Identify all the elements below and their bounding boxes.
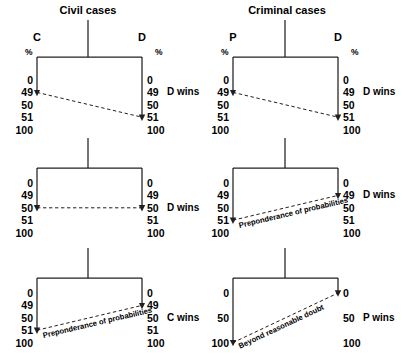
scale-label-right-civil-middle-0: 0: [147, 178, 153, 189]
scale-label-right-criminal-top-100: 100: [343, 125, 361, 136]
scale-label-right-criminal-top-0: 0: [343, 75, 349, 86]
scale-label-left-criminal-bottom-50: 50: [217, 313, 229, 324]
outcome-label-criminal-middle: D wins: [363, 190, 395, 200]
column-title-criminal: Criminal cases: [248, 5, 326, 16]
party-label-criminal-right: D: [334, 32, 342, 43]
percent-label-civil-right: %: [155, 48, 163, 57]
scale-label-right-civil-middle-50: 50: [147, 203, 159, 214]
scale-label-right-criminal-middle-51: 51: [343, 215, 355, 226]
scale-label-left-criminal-middle-100: 100: [211, 228, 229, 239]
scale-label-left-criminal-top-50: 50: [217, 100, 229, 111]
outcome-label-civil-middle: D wins: [167, 203, 199, 213]
scale-label-left-criminal-top-100: 100: [211, 125, 229, 136]
party-label-civil-right: D: [138, 32, 146, 43]
scale-label-right-criminal-bottom-50: 50: [343, 313, 355, 324]
outcome-label-civil-bottom: C wins: [167, 313, 199, 323]
scale-label-right-criminal-top-50: 50: [343, 100, 355, 111]
percent-label-criminal-right: %: [351, 48, 359, 57]
scale-label-right-civil-middle-51: 51: [147, 215, 159, 226]
outcome-label-criminal-top: D wins: [363, 87, 395, 97]
percent-label-criminal-left: %: [221, 48, 229, 57]
scale-label-left-civil-top-0: 0: [27, 75, 33, 86]
scale-label-left-criminal-top-51: 51: [217, 112, 229, 123]
column-title-civil: Civil cases: [60, 5, 117, 16]
scale-label-left-civil-bottom-51: 51: [21, 325, 33, 336]
scale-label-left-civil-top-100: 100: [15, 125, 33, 136]
scale-label-right-civil-bottom-0: 0: [147, 288, 153, 299]
scale-label-left-criminal-top-0: 0: [223, 75, 229, 86]
scale-label-right-civil-top-0: 0: [147, 75, 153, 86]
diagram-canvas: Civil cases C % D % Criminal cases P % D…: [0, 0, 408, 356]
scale-label-right-civil-middle-100: 100: [147, 228, 165, 239]
scale-label-left-civil-bottom-0: 0: [27, 288, 33, 299]
scale-label-right-criminal-top-51: 51: [343, 112, 355, 123]
scale-label-left-criminal-bottom-100: 100: [211, 338, 229, 349]
scale-label-right-criminal-top-49: 49: [343, 87, 355, 98]
scale-label-right-criminal-bottom-100: 100: [343, 338, 361, 349]
scale-label-left-civil-bottom-49: 49: [21, 300, 33, 311]
scale-label-left-criminal-bottom-0: 0: [223, 288, 229, 299]
scale-label-right-civil-top-50: 50: [147, 100, 159, 111]
scale-label-left-criminal-middle-49: 49: [217, 190, 229, 201]
scale-label-right-civil-top-100: 100: [147, 125, 165, 136]
scale-label-left-criminal-middle-51: 51: [217, 215, 229, 226]
scale-label-left-criminal-top-49: 49: [217, 87, 229, 98]
party-label-civil-left: C: [33, 32, 41, 43]
scale-label-left-civil-bottom-100: 100: [15, 338, 33, 349]
scale-label-right-criminal-middle-0: 0: [343, 178, 349, 189]
outcome-label-civil-top: D wins: [167, 87, 199, 97]
scale-label-right-civil-bottom-100: 100: [147, 338, 165, 349]
scale-label-left-civil-top-49: 49: [21, 87, 33, 98]
scale-label-right-criminal-middle-100: 100: [343, 228, 361, 239]
scale-label-right-civil-top-51: 51: [147, 112, 159, 123]
scale-label-left-civil-middle-0: 0: [27, 178, 33, 189]
scale-label-left-criminal-middle-0: 0: [223, 178, 229, 189]
scale-label-left-civil-middle-50: 50: [21, 203, 33, 214]
scale-label-left-civil-bottom-50: 50: [21, 313, 33, 324]
scale-label-left-criminal-middle-50: 50: [217, 203, 229, 214]
scale-label-left-civil-top-51: 51: [21, 112, 33, 123]
scale-label-right-civil-bottom-51: 51: [147, 325, 159, 336]
scale-label-left-civil-middle-49: 49: [21, 190, 33, 201]
outcome-label-criminal-bottom: P wins: [363, 313, 395, 323]
scale-label-left-civil-middle-100: 100: [15, 228, 33, 239]
scale-label-left-civil-top-50: 50: [21, 100, 33, 111]
party-label-criminal-left: P: [229, 32, 236, 43]
scale-label-right-civil-middle-49: 49: [147, 190, 159, 201]
scale-label-right-criminal-bottom-0: 0: [343, 288, 349, 299]
scale-label-left-civil-middle-51: 51: [21, 215, 33, 226]
scale-label-right-civil-top-49: 49: [147, 87, 159, 98]
percent-label-civil-left: %: [25, 48, 33, 57]
